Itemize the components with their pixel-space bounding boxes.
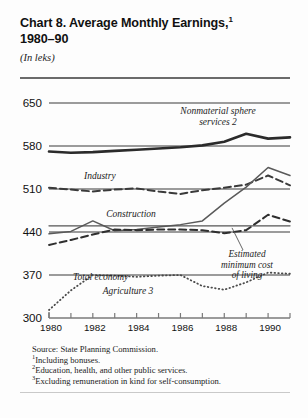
footnote-2: 2Education, health, and other public ser… xyxy=(32,365,287,375)
y-tick-label-510: 510 xyxy=(23,182,42,195)
y-axis-tick-labels: 300370440510580650 xyxy=(23,96,42,324)
chart-page: Chart 8. Average Monthly Earnings,11980–… xyxy=(0,0,308,418)
annotation-industry: Industry xyxy=(83,171,116,181)
footnote-2-text: Education, health, and other public serv… xyxy=(35,365,187,375)
annotation-agriculture: Agriculture 3 xyxy=(102,286,154,296)
source-note: Source: State Planning Commission. xyxy=(32,344,287,354)
y-tick-label-440: 440 xyxy=(23,225,42,238)
y-tick-label-370: 370 xyxy=(23,268,42,281)
y-tick-label-650: 650 xyxy=(23,96,42,109)
chart-plot-area: 300370440510580650 198019821984198619881… xyxy=(0,82,308,340)
chart-title-line1: Chart 8. Average Monthly Earnings, xyxy=(20,16,228,30)
x-tick-label-1990: 1990 xyxy=(259,322,281,333)
x-tick-label-1988: 1988 xyxy=(215,322,237,333)
footnote-1-text: Including bonuses. xyxy=(35,355,100,365)
footer-divider xyxy=(20,392,290,393)
header-divider xyxy=(20,77,290,79)
y-tick-label-580: 580 xyxy=(23,139,42,152)
annotation-nonmaterial-sphere-services: Nonmaterial sphereservices 2 xyxy=(179,106,255,127)
chart-svg: 300370440510580650 198019821984198619881… xyxy=(0,82,308,340)
x-tick-label-1984: 1984 xyxy=(128,322,150,333)
x-tick-label-1982: 1982 xyxy=(84,322,106,333)
x-tick-label-1986: 1986 xyxy=(172,322,194,333)
annotation-total-economy: Total economy xyxy=(73,272,129,282)
y-tick-label-300: 300 xyxy=(23,311,42,324)
annotation-construction: Construction xyxy=(106,209,156,219)
page-title: Chart 8. Average Monthly Earnings,11980–… xyxy=(20,16,282,47)
series-line-nonmaterial-sphere-services xyxy=(49,134,290,153)
footnote-1: 1Including bonuses. xyxy=(32,355,287,365)
chart-title-footnote-marker: 1 xyxy=(228,15,232,24)
series-lines-group xyxy=(49,134,290,310)
series-line-total-economy xyxy=(49,215,290,245)
chart-title-line2: 1980–90 xyxy=(20,32,68,46)
footnote-3-text: Excluding remuneration in kind for self-… xyxy=(35,376,221,386)
x-tick-label-1980: 1980 xyxy=(40,322,62,333)
chart-header: Chart 8. Average Monthly Earnings,11980–… xyxy=(20,16,282,64)
footnote-3: 3Excluding remuneration in kind for self… xyxy=(32,376,287,386)
x-axis-tick-labels: 198019821984198619881990 xyxy=(40,322,281,333)
chart-units-label: (In leks) xyxy=(20,51,282,64)
chart-footnotes: Source: State Planning Commission. 1Incl… xyxy=(32,344,287,386)
